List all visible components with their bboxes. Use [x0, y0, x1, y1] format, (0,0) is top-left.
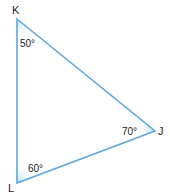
vertex-label-j: J	[158, 125, 164, 137]
vertex-label-l: L	[8, 182, 14, 194]
angle-label-k: 50°	[20, 38, 35, 49]
angle-label-l: 60°	[28, 163, 43, 174]
angle-shade-l	[17, 19, 155, 183]
angle-label-j: 70°	[122, 126, 137, 137]
triangle-diagram: K J L 50° 70° 60°	[0, 0, 170, 195]
vertex-label-k: K	[12, 4, 20, 16]
